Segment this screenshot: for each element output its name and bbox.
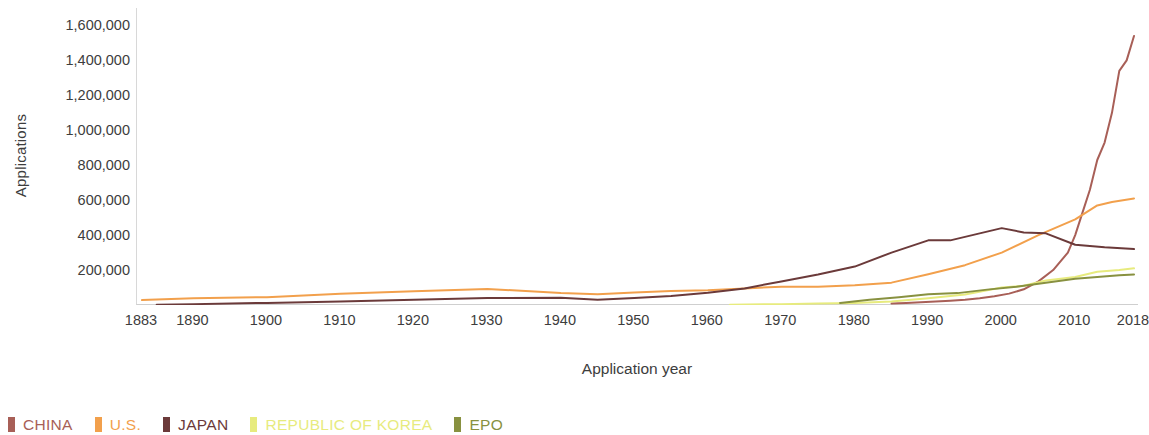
legend-item-u-s-[interactable]: U.S. xyxy=(95,416,141,434)
chart-legend: CHINAU.S.JAPANREPUBLIC OF KOREAEPO xyxy=(8,414,525,435)
legend-swatch-icon xyxy=(8,417,15,432)
series-line-epo xyxy=(840,274,1134,302)
y-axis-tick: 400,000 xyxy=(34,227,130,243)
x-axis-tick: 1960 xyxy=(691,312,723,328)
series-canvas xyxy=(137,8,1139,305)
legend-swatch-icon xyxy=(250,417,257,432)
x-axis-tick: 1883 xyxy=(125,312,157,328)
x-axis-tick: 1900 xyxy=(250,312,282,328)
legend-swatch-icon xyxy=(95,417,102,432)
y-axis-tick: 1,400,000 xyxy=(34,52,130,68)
legend-label: U.S. xyxy=(110,416,141,434)
series-line-china xyxy=(892,36,1134,303)
x-axis-tick: 1970 xyxy=(764,312,796,328)
x-axis-tick: 1980 xyxy=(838,312,870,328)
x-axis-tick: 1920 xyxy=(397,312,429,328)
legend-label: JAPAN xyxy=(178,416,228,434)
x-axis-tick: 2018 xyxy=(1117,312,1149,328)
x-axis-tick: 2000 xyxy=(985,312,1017,328)
legend-item-epo[interactable]: EPO xyxy=(454,416,503,434)
x-axis-tick: 1930 xyxy=(470,312,502,328)
legend-label: CHINA xyxy=(23,416,73,434)
y-axis-tick: 600,000 xyxy=(34,192,130,208)
y-axis-tick: 1,000,000 xyxy=(34,122,130,138)
y-axis-tick: 800,000 xyxy=(34,157,130,173)
legend-swatch-icon xyxy=(454,417,461,432)
x-axis-tick: 1910 xyxy=(323,312,355,328)
series-line-japan xyxy=(157,228,1134,305)
legend-swatch-icon xyxy=(163,417,170,432)
legend-label: EPO xyxy=(469,416,503,434)
y-axis-tick-labels: 200,000400,000600,000800,0001,000,0001,2… xyxy=(32,0,130,310)
series-line-u-s- xyxy=(142,198,1134,300)
y-axis-tick: 1,600,000 xyxy=(34,17,130,33)
legend-label: REPUBLIC OF KOREA xyxy=(265,416,432,434)
x-axis-tick: 2010 xyxy=(1058,312,1090,328)
legend-item-republic-of-korea[interactable]: REPUBLIC OF KOREA xyxy=(250,416,432,434)
x-axis-tick: 1950 xyxy=(617,312,649,328)
x-axis-tick: 1890 xyxy=(176,312,208,328)
x-axis-title: Application year xyxy=(136,360,1138,378)
x-axis-tick-labels: 1883189019001910192019301940195019601970… xyxy=(136,312,1140,336)
x-axis-tick: 1990 xyxy=(911,312,943,328)
legend-item-china[interactable]: CHINA xyxy=(8,416,73,434)
x-axis-tick: 1940 xyxy=(544,312,576,328)
y-axis-tick: 1,200,000 xyxy=(34,87,130,103)
y-axis-title-text: Applications xyxy=(13,113,30,196)
plot-area xyxy=(136,8,1138,305)
y-axis-tick: 200,000 xyxy=(34,262,130,278)
legend-item-japan[interactable]: JAPAN xyxy=(163,416,228,434)
